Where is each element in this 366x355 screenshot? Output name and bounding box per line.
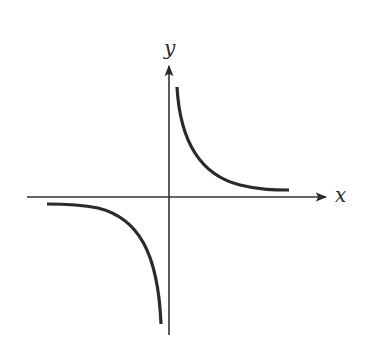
upper-right-branch — [177, 87, 289, 190]
lower-left-branch — [47, 204, 161, 324]
graph-canvas — [0, 0, 366, 355]
x-axis-label: x — [335, 185, 346, 205]
hyperbola-diagram: y x — [0, 0, 366, 355]
y-axis-label: y — [164, 38, 175, 58]
